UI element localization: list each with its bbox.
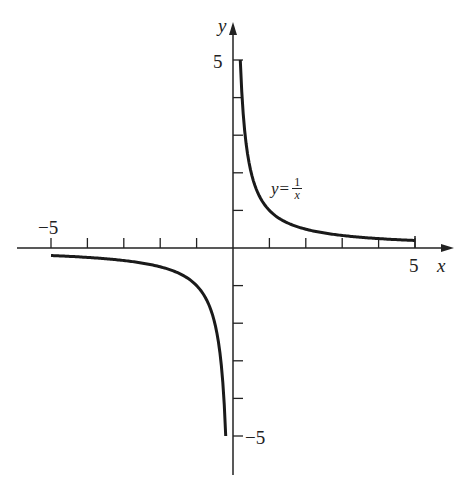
curve-annotation: y = 1 x <box>271 176 302 201</box>
y-max-label: 5 <box>213 52 223 71</box>
annotation-fraction: 1 x <box>292 176 302 201</box>
x-min-label: −5 <box>38 218 58 237</box>
function-plot <box>0 0 466 490</box>
y-axis-label: y <box>218 16 226 35</box>
y-min-label: −5 <box>245 428 265 447</box>
x-axis-arrow-icon <box>441 244 454 252</box>
annotation-equals: = <box>280 179 290 199</box>
annotation-lhs: y <box>271 179 279 199</box>
curve-negative-branch <box>51 256 226 436</box>
x-max-label: 5 <box>409 256 419 275</box>
x-axis-label: x <box>437 256 445 275</box>
fraction-denominator: x <box>294 189 299 201</box>
curve-positive-branch <box>240 60 415 240</box>
axes <box>17 28 448 475</box>
y-axis-arrow-icon <box>229 22 237 35</box>
